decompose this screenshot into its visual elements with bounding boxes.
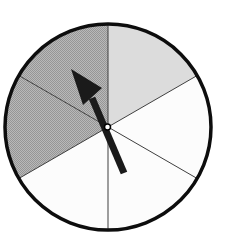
spinner-pin (105, 124, 111, 130)
spinner-image (0, 0, 225, 247)
spinner-wheel (0, 0, 225, 247)
